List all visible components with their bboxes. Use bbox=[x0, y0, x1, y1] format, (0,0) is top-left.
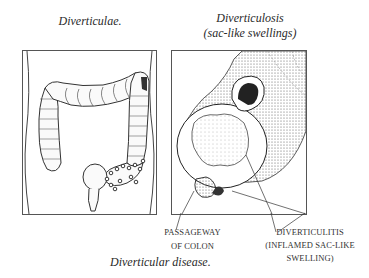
passageway-label: PASSAGEWAY OF COLON bbox=[150, 226, 235, 253]
diverticulitis-label-line2: (INFLAMED SAC-LIKE bbox=[255, 239, 365, 252]
colon-cross-section-illustration bbox=[172, 51, 306, 214]
passageway-label-line2: OF COLON bbox=[150, 240, 235, 253]
diverticulitis-label-line3: SWELLING) bbox=[255, 252, 365, 265]
left-panel-title: Diverticulae. bbox=[40, 14, 140, 29]
diverticulosis-illustration-panel bbox=[171, 50, 307, 215]
diverticulitis-label: DIVERTICULITIS (INFLAMED SAC-LIKE SWELLI… bbox=[255, 226, 365, 265]
figure-caption: Diverticular disease. bbox=[110, 255, 211, 270]
right-panel-title: Diverticulosis bbox=[190, 11, 310, 26]
large-intestine-illustration bbox=[23, 51, 156, 214]
passageway-label-line1: PASSAGEWAY bbox=[150, 226, 235, 239]
diverticulae-illustration-panel bbox=[22, 50, 157, 215]
right-panel-subtitle: (sac-like swellings) bbox=[180, 26, 320, 41]
diverticulitis-label-line1: DIVERTICULITIS bbox=[255, 226, 365, 239]
